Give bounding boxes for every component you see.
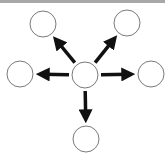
node-top-right — [114, 10, 140, 36]
node-right — [138, 61, 164, 87]
node-center — [72, 62, 98, 88]
hub-and-spoke-diagram — [0, 0, 165, 158]
arrow-to-top-right — [95, 40, 113, 63]
node-bottom — [73, 126, 99, 152]
node-left — [7, 61, 33, 87]
node-top-left — [30, 11, 56, 37]
arrow-to-top-left — [57, 41, 75, 63]
arrow-to-left — [42, 74, 69, 75]
arrow-to-right — [101, 74, 129, 75]
arrow-to-bottom — [85, 91, 86, 117]
node-group — [7, 10, 164, 152]
